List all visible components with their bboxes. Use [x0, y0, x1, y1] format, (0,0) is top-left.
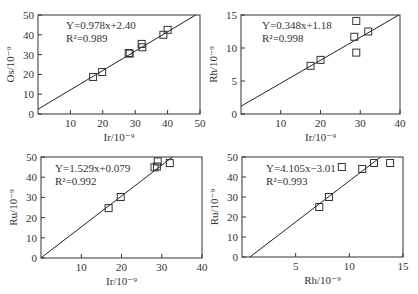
y-tick-label: 40: [26, 171, 38, 183]
y-tick-label: 0: [32, 252, 38, 264]
y-tick-label: 30: [227, 191, 239, 203]
r-squared: R²=0.992: [55, 175, 97, 187]
regression-line: [41, 134, 202, 258]
x-axis-label: Ir/10⁻⁹: [305, 131, 336, 143]
x-axis-label: Ir/10⁻⁹: [103, 131, 134, 143]
y-tick-label: 20: [26, 212, 38, 224]
y-tick-label: 10: [226, 42, 238, 54]
x-tick-label: 5: [293, 260, 299, 272]
x-tick-label: 40: [162, 117, 174, 129]
y-tick-label: 20: [227, 211, 239, 223]
y-tick-label: 50: [227, 151, 239, 163]
r-squared: R²=0.998: [262, 32, 304, 44]
y-axis-label: Os/10⁻⁹: [4, 46, 16, 82]
y-tick-label: 30: [23, 49, 35, 61]
y-tick-label: 10: [26, 232, 38, 244]
x-axis-label: Rh/10⁻⁹: [304, 274, 341, 286]
x-tick-label: 50: [195, 117, 207, 129]
x-tick-label: 10: [275, 117, 287, 129]
data-point-square: [387, 160, 394, 167]
y-tick-label: 40: [227, 171, 239, 183]
data-point-square: [353, 49, 360, 56]
y-tick-label: 0: [232, 108, 238, 120]
y-tick-label: 10: [23, 88, 35, 100]
y-tick-label: 40: [23, 29, 35, 41]
r-squared: R²=0.989: [66, 32, 108, 44]
x-tick-label: 40: [395, 117, 407, 129]
y-tick-label: 0: [233, 251, 239, 263]
data-point-square: [353, 17, 360, 24]
x-tick-label: 15: [398, 260, 410, 272]
y-axis-label: Ru/10⁻⁹: [7, 189, 19, 226]
y-tick-label: 50: [23, 9, 35, 21]
x-tick-label: 20: [97, 117, 109, 129]
chart-grid: 102030405001020304050Ir/10⁻⁹Os/10⁻⁹Y=0.9…: [0, 0, 418, 294]
x-tick-label: 20: [315, 117, 327, 129]
data-point-square: [338, 164, 345, 171]
x-tick-label: 40: [197, 261, 209, 273]
regression-equation: Y=4.105x−3.01: [266, 162, 336, 174]
x-axis-label: Ir/10⁻⁹: [106, 275, 137, 287]
x-tick-label: 30: [156, 261, 168, 273]
y-axis-label: Ru/10⁻⁹: [208, 189, 220, 226]
x-tick-label: 30: [355, 117, 367, 129]
scatter-panel-top-right: 10203040051015Ir/10⁻⁹Rh/10⁻⁹Y=0.348x+1.1…: [207, 9, 406, 143]
y-tick-label: 30: [26, 191, 38, 203]
y-tick-label: 10: [227, 231, 239, 243]
scatter-panel-top-left: 102030405001020304050Ir/10⁻⁹Os/10⁻⁹Y=0.9…: [4, 9, 206, 143]
regression-equation: Y=0.348x+1.18: [262, 19, 332, 31]
scatter-panel-bottom-right: 5101501020304050Rh/10⁻⁹Ru/10⁻⁹Y=4.105x−3…: [208, 140, 409, 286]
x-tick-label: 10: [65, 117, 77, 129]
x-tick-label: 20: [116, 261, 128, 273]
regression-equation: Y=0.978x+2.40: [66, 19, 136, 31]
regression-line: [242, 140, 403, 263]
scatter-panel-bottom-left: 1020304001020304050Ir/10⁻⁹Ru/10⁻⁹Y=1.529…: [7, 134, 208, 287]
regression-equation: Y=1.529x+0.079: [55, 162, 131, 174]
r-squared: R²=0.993: [266, 175, 308, 187]
x-tick-label: 10: [76, 261, 88, 273]
data-point-square: [316, 204, 323, 211]
y-tick-label: 15: [226, 9, 238, 21]
y-axis-label: Rh/10⁻⁹: [207, 46, 219, 83]
y-tick-label: 0: [29, 108, 35, 120]
y-tick-label: 20: [23, 68, 35, 80]
y-tick-label: 50: [26, 151, 38, 163]
x-tick-label: 10: [344, 260, 356, 272]
y-tick-label: 5: [232, 75, 238, 87]
x-tick-label: 30: [130, 117, 142, 129]
